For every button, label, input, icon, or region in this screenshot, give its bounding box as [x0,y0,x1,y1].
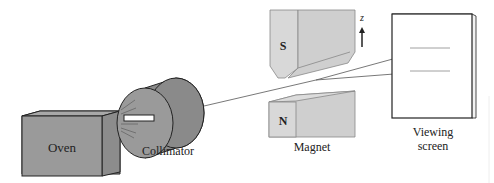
magnet-south-pole: S [270,10,355,78]
z-axis-arrow: z [359,12,365,47]
stern-gerlach-diagram: Oven Collimator S z N Magnet [0,0,494,183]
screen-label-line2: screen [418,139,449,153]
north-pole-label: N [279,114,288,128]
viewing-screen: Viewing screen [392,14,476,153]
collimator: Collimator [117,78,204,158]
magnet-label: Magnet [294,140,331,154]
oven: Oven [22,111,120,176]
z-axis-label: z [359,12,364,23]
magnet-north-pole: N Magnet [269,91,355,154]
collimator-slit [124,115,154,121]
south-pole-label: S [280,39,287,53]
collimator-label: Collimator [142,144,194,158]
oven-label: Oven [48,140,77,155]
screen-label-line1: Viewing [413,125,454,139]
